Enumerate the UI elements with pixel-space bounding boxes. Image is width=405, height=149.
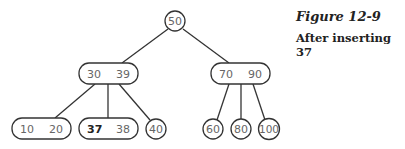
node-key: 70 <box>219 68 233 81</box>
edge-root-right <box>183 29 229 63</box>
node-10-20: 10 20 <box>12 118 71 139</box>
node-100: 100 <box>259 119 280 140</box>
node-key: 90 <box>248 68 262 81</box>
node-key: 50 <box>168 15 182 28</box>
node-60: 60 <box>203 119 223 139</box>
edge <box>119 84 150 120</box>
edge <box>253 84 265 120</box>
node-key: 10 <box>20 123 34 136</box>
node-key: 38 <box>116 123 130 136</box>
edge-root-left <box>122 29 168 63</box>
node-key: 30 <box>87 68 101 81</box>
node-40: 40 <box>146 119 166 139</box>
edge <box>55 84 95 118</box>
node-key: 40 <box>149 123 163 136</box>
node-key: 80 <box>234 123 248 136</box>
inserted-key: 37 <box>87 123 102 136</box>
figure-title: Figure 12-9 <box>296 9 381 24</box>
node-30-39: 30 39 <box>79 63 138 84</box>
node-37-38: 37 38 <box>79 118 138 139</box>
node-key: 100 <box>259 123 279 135</box>
node-key: 20 <box>49 123 63 136</box>
node-80: 80 <box>231 119 251 139</box>
node-root: 50 <box>165 11 185 31</box>
figure-subtitle: After inserting 37 <box>296 31 405 59</box>
node-key: 39 <box>116 68 130 81</box>
node-key: 60 <box>206 123 220 136</box>
figure: 50 30 39 70 90 10 20 37 38 40 <box>0 0 405 149</box>
edge <box>217 84 229 120</box>
node-70-90: 70 90 <box>211 63 270 84</box>
